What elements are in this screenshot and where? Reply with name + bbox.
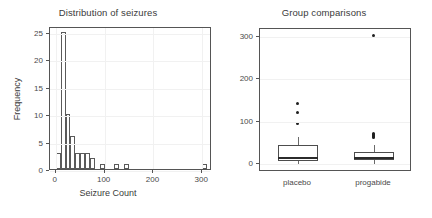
y-tick-mark	[256, 121, 259, 122]
gridline-horizontal	[260, 37, 410, 38]
y-tick-mark	[46, 143, 49, 144]
y-tick-mark	[256, 163, 259, 164]
y-tick-mark	[46, 33, 49, 34]
gridline-horizontal	[50, 116, 210, 117]
histogram-title: Distribution of seizures	[0, 7, 216, 18]
panel-boxplot: Group comparisons 0100200300 placeboprog…	[216, 0, 432, 218]
gridline-horizontal	[260, 122, 410, 123]
gridline-vertical	[202, 28, 203, 169]
boxplot-whisker-upper	[298, 137, 299, 146]
boxplot-group	[278, 29, 318, 170]
boxplot-category-label: placebo	[283, 178, 311, 187]
y-tick-mark	[46, 170, 49, 171]
boxplot-category-label: progabide	[355, 178, 391, 187]
y-tick-label: 5	[0, 138, 43, 147]
gridline-horizontal	[260, 79, 410, 80]
boxplot-outlier-point	[296, 111, 299, 114]
y-tick-mark	[46, 60, 49, 61]
y-tick-mark	[46, 115, 49, 116]
gridline-vertical	[105, 28, 106, 169]
boxplot-title: Group comparisons	[216, 7, 432, 18]
y-tick-mark	[256, 78, 259, 79]
y-tick-label: 100	[216, 116, 253, 125]
boxplot-median-line	[354, 157, 394, 159]
x-tick-mark	[152, 170, 153, 173]
x-tick-label: 0	[53, 175, 57, 184]
gridline-horizontal	[260, 164, 410, 165]
x-tick-mark	[201, 170, 202, 173]
histogram-bars	[50, 28, 210, 169]
y-tick-mark	[256, 36, 259, 37]
x-tick-label: 300	[195, 175, 208, 184]
gridline-horizontal	[50, 61, 210, 62]
boxplot-group	[354, 29, 394, 170]
histogram-x-axis-title: Seizure Count	[0, 188, 216, 198]
boxplot-outlier-point	[296, 102, 299, 105]
gridline-vertical	[56, 28, 57, 169]
boxplot-median-line	[278, 157, 318, 159]
y-tick-label: 300	[216, 31, 253, 40]
x-tick-label: 100	[97, 175, 110, 184]
histogram-y-axis-title: Frequency	[12, 77, 22, 120]
panel-histogram: Distribution of seizures 0510152025 0100…	[0, 0, 216, 218]
x-tick-mark	[104, 170, 105, 173]
gridline-vertical	[153, 28, 154, 169]
histogram-bar	[90, 158, 95, 169]
y-tick-label: 20	[0, 56, 43, 65]
histogram-plot-area	[49, 27, 211, 170]
x-tick-label: 200	[146, 175, 159, 184]
histogram-bar	[114, 164, 119, 170]
gridline-horizontal	[50, 89, 210, 90]
gridline-horizontal	[50, 171, 210, 172]
figure-canvas: Distribution of seizures 0510152025 0100…	[0, 0, 432, 218]
y-tick-label: 0	[0, 166, 43, 175]
x-tick-mark	[55, 170, 56, 173]
boxplot-plot-area	[259, 28, 411, 171]
gridline-horizontal	[50, 34, 210, 35]
boxplot-outlier-point	[372, 132, 375, 135]
y-tick-label: 200	[216, 74, 253, 83]
y-tick-label: 25	[0, 28, 43, 37]
y-tick-mark	[46, 88, 49, 89]
histogram-bar	[124, 164, 129, 170]
gridline-horizontal	[50, 144, 210, 145]
y-tick-label: 0	[216, 159, 253, 168]
